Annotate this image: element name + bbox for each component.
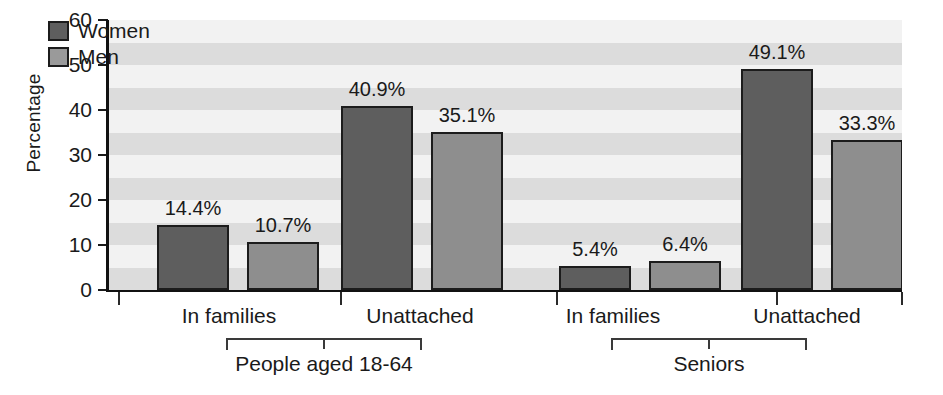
y-tick-label: 40 (48, 99, 92, 120)
bar-chart: Percentage 0102030405060 14.4%10.7%40.9%… (0, 0, 943, 395)
bar (559, 266, 631, 290)
background-band (109, 20, 902, 43)
bar-value-label: 40.9% (349, 79, 406, 99)
bar-value-label: 49.1% (749, 42, 806, 62)
bar-value-label: 5.4% (572, 239, 618, 259)
bar-value-label: 35.1% (439, 105, 496, 125)
bar-value-label: 6.4% (662, 234, 708, 254)
bar-value-label: 14.4% (165, 198, 222, 218)
bar (741, 69, 813, 290)
group-label-left: People aged 18-64 (235, 353, 413, 374)
legend-label-women: Women (78, 20, 150, 41)
bar (341, 106, 413, 290)
x-category-label: Unattached (366, 305, 473, 326)
y-tick-label: 30 (48, 144, 92, 165)
y-tick-label: 20 (48, 189, 92, 210)
group-label-right: Seniors (673, 353, 744, 374)
legend-item-women: Women (48, 20, 150, 41)
bar (431, 132, 503, 290)
bar (247, 242, 319, 290)
x-tick-mark (901, 292, 903, 305)
legend-swatch-men-icon (48, 47, 69, 67)
x-category-label: Unattached (753, 305, 860, 326)
bar (157, 225, 229, 290)
group-bracket-stem-left (323, 338, 325, 349)
x-category-label: In families (182, 305, 277, 326)
bar (831, 140, 902, 290)
bar (649, 261, 721, 290)
y-tick-label: 10 (48, 234, 92, 255)
legend-swatch-women-icon (48, 21, 69, 41)
bar-value-label: 10.7% (255, 215, 312, 235)
x-tick-mark (118, 292, 120, 305)
y-axis-title: Percentage (23, 23, 45, 223)
bar-value-label: 33.3% (839, 113, 896, 133)
x-category-label: In families (566, 305, 661, 326)
legend-label-men: Men (78, 46, 119, 67)
legend-item-men: Men (48, 46, 150, 67)
legend: Women Men (48, 20, 150, 67)
x-tick-mark (340, 292, 342, 305)
y-tick-label: 0 (48, 279, 92, 300)
x-tick-mark (556, 292, 558, 305)
group-bracket-stem-right (708, 338, 710, 349)
